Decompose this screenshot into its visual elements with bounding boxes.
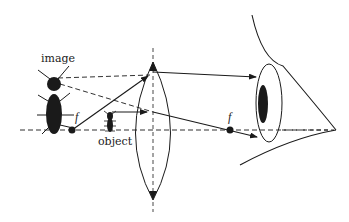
image-label: image [41,52,75,65]
focal-label-right: f [228,110,233,124]
convex-lens [136,62,171,200]
ray-lens-through-focal [153,112,257,137]
object-insect-icon [104,111,116,132]
magnifier-ray-diagram: image object f f [0,0,349,222]
focal-label-left: f [75,110,80,124]
virtual-ray-top [58,75,150,78]
virtual-ray-bottom [60,84,153,112]
ray-parallel-to-eye [153,72,256,77]
eye-icon [240,15,336,165]
object-label: object [98,135,133,148]
image-insect-icon [37,66,74,134]
lens-top-arrow-icon [149,62,157,71]
